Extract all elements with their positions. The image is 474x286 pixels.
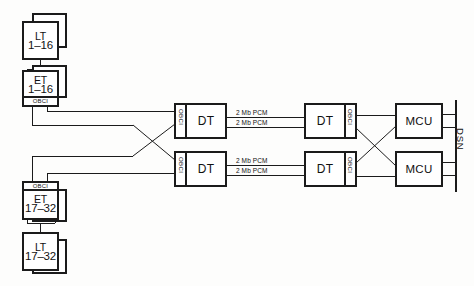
pcm-top-lower-label: 2 Mb PCM [236, 119, 268, 126]
bottom-et-label: ET 17–32 [23, 194, 58, 213]
bottom-lt-label: LT 17–32 [23, 242, 58, 261]
top-et-label: ET 1–16 [23, 75, 58, 94]
wire-bottom-a-cross [133, 124, 175, 156]
mcu-bottom-label: MCU [396, 163, 442, 175]
pcm-top-upper-label: 2 Mb PCM [236, 109, 268, 116]
top-lt-range: 1–16 [23, 40, 58, 50]
dt-left-bottom-obci-label: OBCI [178, 157, 184, 173]
pcm-bottom-upper-label: 2 Mb PCM [236, 157, 268, 164]
pcm-bottom-lower-label: 2 Mb PCM [236, 167, 268, 174]
dsn-bus-label: DSN [455, 128, 466, 150]
wire-top-b-cross [133, 125, 175, 160]
wire-mcu-cross-up [356, 126, 396, 163]
dt-right-bottom-label: DT [305, 162, 345, 176]
dt-right-top-label: DT [305, 114, 345, 128]
dt-left-top-label: DT [186, 114, 226, 128]
dt-right-top-obci-label: OBCI [347, 109, 353, 125]
diagram-canvas: LT 1–16 ET 1–16 OBCI OBCI ET 17–32 LT 17… [0, 0, 474, 286]
bottom-et-range: 17–32 [23, 203, 58, 213]
mcu-top-label: MCU [396, 115, 442, 127]
dt-right-bottom-obci-label: OBCI [347, 157, 353, 173]
bottom-obci-label: OBCI [23, 183, 58, 189]
dt-left-top-obci-label: OBCI [178, 109, 184, 125]
wire-mcu-cross-down [356, 128, 396, 166]
top-obci-label: OBCI [23, 98, 58, 104]
bottom-lt-range: 17–32 [23, 251, 58, 261]
dt-left-bottom-label: DT [186, 162, 226, 176]
top-lt-label: LT 1–16 [23, 31, 58, 50]
top-et-range: 1–16 [23, 84, 58, 94]
diagram-vector-layer [0, 0, 474, 286]
